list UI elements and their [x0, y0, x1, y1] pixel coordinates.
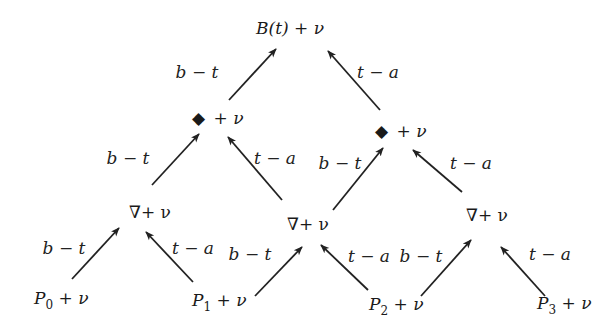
- edge-label-p1-nl: t − a: [172, 238, 214, 258]
- edge-arrow-dl-top: [229, 49, 276, 100]
- diamond-icon: ◆: [192, 108, 206, 128]
- edge-label-nm-dr: b − t: [319, 153, 362, 173]
- diamond-icon: ◆: [375, 121, 389, 141]
- node-nabla-right-label: ∇+ ν: [466, 205, 508, 225]
- edge-arrow-nl-dl: [152, 134, 199, 185]
- edge-label-p3-nr: t − a: [529, 244, 571, 264]
- node-diamond-left-label: + ν: [213, 108, 243, 128]
- node-nabla-left: ∇+ ν: [129, 202, 171, 222]
- edge-label-nl-dl: b − t: [107, 148, 150, 168]
- edge-label-p2-nm: t − a: [348, 246, 390, 266]
- node-diamond-right-label: + ν: [396, 121, 426, 141]
- edge-label-dr-top: t − a: [357, 62, 399, 82]
- node-p2: P2 + ν: [368, 294, 423, 318]
- edge-label-nr-dr: t − a: [450, 153, 492, 173]
- node-p3: P3 + ν: [536, 293, 591, 317]
- node-top: B(t) + ν: [255, 18, 324, 38]
- edge-label-nm-dl: t − a: [254, 148, 296, 168]
- node-nabla-right: ∇+ ν: [466, 205, 508, 225]
- pyramid-diagram: B(t) + ν ◆ + ν ◆ + ν ∇+ ν ∇+ ν ∇+ ν P0 +…: [0, 0, 616, 334]
- edge-label-p0-nl: b − t: [43, 238, 86, 258]
- edge-arrow-nm-dl: [228, 137, 282, 200]
- node-nabla-mid-label: ∇+ ν: [287, 214, 329, 234]
- node-p0: P0 + ν: [33, 288, 88, 312]
- node-diamond-right: ◆ + ν: [375, 121, 426, 141]
- node-top-label: B(t) + ν: [255, 18, 324, 38]
- node-nabla-mid: ∇+ ν: [287, 214, 329, 234]
- edge-label-p2-nr: b − t: [400, 246, 443, 266]
- edge-label-dl-top: b − t: [176, 62, 219, 82]
- node-p1: P1 + ν: [191, 290, 246, 314]
- node-nabla-left-label: ∇+ ν: [129, 202, 171, 222]
- node-diamond-left: ◆ + ν: [192, 108, 243, 128]
- edge-label-p1-nm: b − t: [229, 244, 272, 264]
